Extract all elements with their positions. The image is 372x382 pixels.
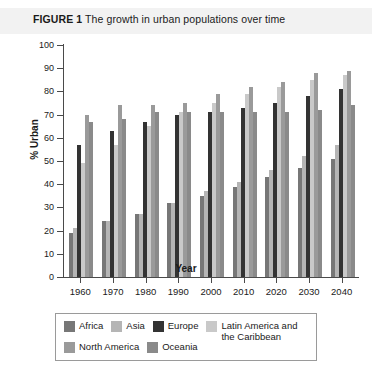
bar bbox=[351, 105, 355, 277]
bar-group bbox=[102, 45, 126, 277]
x-tick bbox=[146, 277, 147, 283]
x-tick bbox=[211, 277, 212, 283]
y-tick-label: 60 bbox=[14, 134, 54, 143]
y-tick-label: 50 bbox=[14, 157, 54, 166]
bar-group bbox=[331, 45, 355, 277]
x-tick bbox=[244, 277, 245, 283]
y-tick bbox=[57, 115, 63, 116]
y-tick-label: 20 bbox=[14, 227, 54, 236]
bar bbox=[187, 112, 191, 277]
legend-swatch-icon bbox=[64, 321, 75, 332]
legend-item: Africa bbox=[64, 320, 103, 332]
legend-row-1: AfricaAsiaEuropeLatin America and the Ca… bbox=[64, 320, 305, 342]
y-tick bbox=[57, 161, 63, 162]
legend-item-label: Europe bbox=[168, 320, 199, 331]
legend-swatch-icon bbox=[153, 321, 164, 332]
legend-swatch-icon bbox=[206, 321, 217, 332]
y-tick bbox=[57, 231, 63, 232]
legend-swatch-icon bbox=[64, 342, 75, 353]
legend-item: Asia bbox=[111, 320, 144, 332]
y-tick bbox=[57, 254, 63, 255]
figure-number: FIGURE 1 bbox=[33, 13, 82, 25]
bar-group bbox=[167, 45, 191, 277]
y-tick bbox=[57, 68, 63, 69]
figure-title: FIGURE 1 The growth in urban populations… bbox=[33, 13, 285, 25]
legend-item: Europe bbox=[153, 320, 199, 332]
legend-item-label: Asia bbox=[126, 320, 144, 331]
y-tick-label: 10 bbox=[14, 250, 54, 259]
y-tick bbox=[57, 184, 63, 185]
y-tick-label: 70 bbox=[14, 111, 54, 120]
legend-row-2: North AmericaOceania bbox=[64, 341, 206, 353]
legend-item-label: North America bbox=[79, 341, 139, 352]
bar-group bbox=[233, 45, 257, 277]
plot-area bbox=[64, 45, 358, 277]
bar-group bbox=[200, 45, 224, 277]
legend-item: North America bbox=[64, 341, 139, 353]
x-tick bbox=[309, 277, 310, 283]
x-tick bbox=[178, 277, 179, 283]
legend-swatch-icon bbox=[111, 321, 122, 332]
figure-title-text: The growth in urban populations over tim… bbox=[85, 13, 285, 25]
legend-item: Oceania bbox=[147, 341, 197, 353]
x-tick-label: 2040 bbox=[320, 286, 364, 297]
y-tick-label: 90 bbox=[14, 64, 54, 73]
bar bbox=[220, 112, 224, 277]
y-tick-label: 40 bbox=[14, 180, 54, 189]
bar-group bbox=[265, 45, 289, 277]
bar-group bbox=[298, 45, 322, 277]
x-tick bbox=[342, 277, 343, 283]
y-tick-label: 30 bbox=[14, 203, 54, 212]
legend-item: Latin America and the Caribbean bbox=[206, 320, 297, 342]
bar bbox=[318, 110, 322, 277]
legend-swatch-icon bbox=[147, 342, 158, 353]
x-tick bbox=[113, 277, 114, 283]
bar bbox=[89, 122, 93, 277]
x-axis-title: Year bbox=[0, 263, 372, 274]
bar bbox=[285, 112, 289, 277]
y-tick bbox=[57, 138, 63, 139]
x-tick bbox=[80, 277, 81, 283]
chart-legend: AfricaAsiaEuropeLatin America and the Ca… bbox=[55, 313, 317, 361]
y-tick-label: 100 bbox=[14, 41, 54, 50]
legend-item-label: Africa bbox=[79, 320, 103, 331]
bar-chart: % Urban 0102030405060708090100 196019701… bbox=[0, 38, 372, 288]
y-tick bbox=[57, 277, 63, 278]
y-tick-label: 80 bbox=[14, 87, 54, 96]
bar-group bbox=[69, 45, 93, 277]
y-tick-label: 0 bbox=[14, 273, 54, 282]
bar-group bbox=[135, 45, 159, 277]
legend-item-label: Oceania bbox=[162, 341, 197, 352]
y-tick bbox=[57, 91, 63, 92]
y-tick bbox=[57, 45, 63, 46]
bar bbox=[122, 119, 126, 277]
bar bbox=[155, 112, 159, 277]
y-tick bbox=[57, 207, 63, 208]
legend-item-label: Latin America and the Caribbean bbox=[221, 320, 297, 342]
x-tick bbox=[276, 277, 277, 283]
bar bbox=[253, 112, 257, 277]
